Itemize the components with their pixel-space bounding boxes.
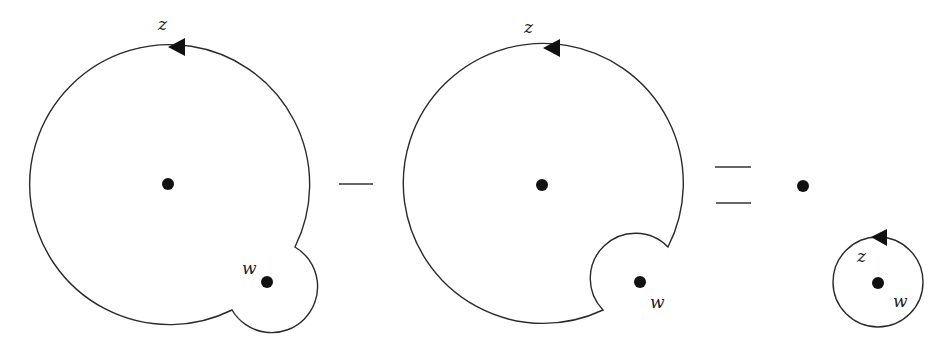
z-label: z <box>157 14 168 34</box>
center-point <box>162 178 174 190</box>
panel-small-circle: z w <box>797 180 923 327</box>
arrowhead-left-icon <box>871 229 887 246</box>
contour-with-bump <box>30 45 318 333</box>
panel-outer-with-bump: z w <box>30 14 318 333</box>
w-point <box>261 276 273 288</box>
center-point <box>536 179 548 191</box>
equals-sign <box>715 167 751 203</box>
w-label: w <box>242 258 257 278</box>
z-label: z <box>856 246 867 266</box>
w-point <box>634 276 646 288</box>
w-point <box>872 277 884 289</box>
contour-diagram: z w z w z w <box>0 0 947 343</box>
w-label: w <box>650 292 665 312</box>
panel-outer-with-indent: z w <box>403 17 683 323</box>
arrowhead-left-icon <box>168 38 185 56</box>
z-label: z <box>523 17 534 37</box>
w-label: w <box>893 291 908 311</box>
arrowhead-left-icon <box>543 39 560 57</box>
center-point <box>797 180 809 192</box>
